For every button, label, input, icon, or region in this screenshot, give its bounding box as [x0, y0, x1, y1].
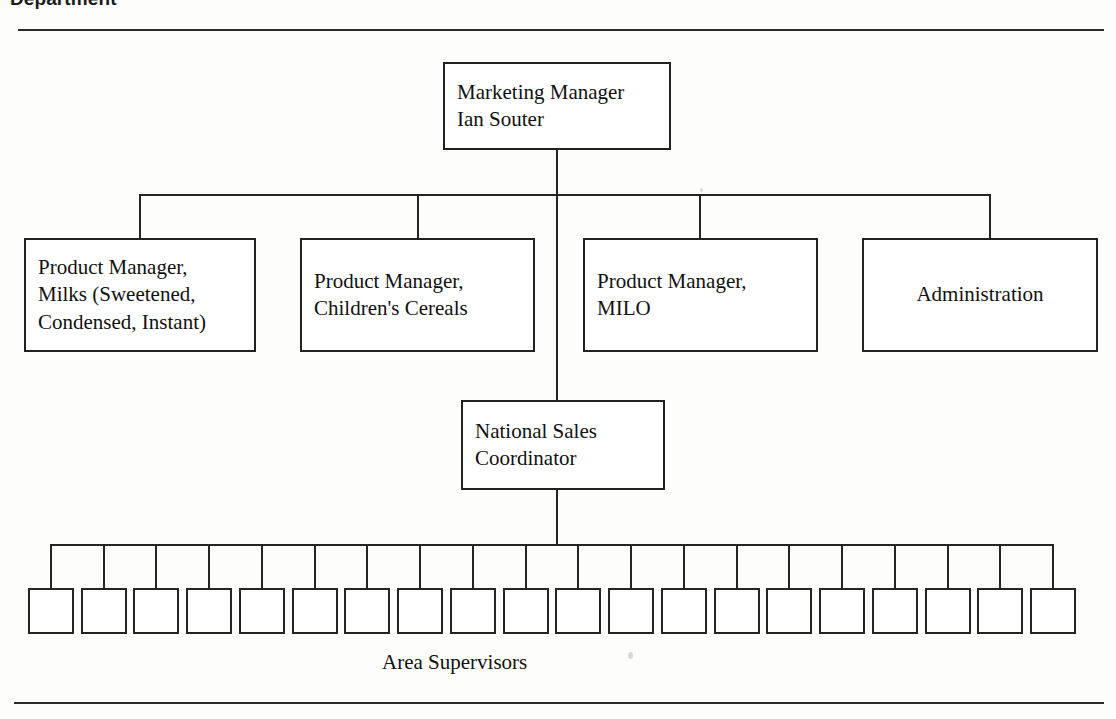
org-node-area-supervisor[interactable] — [239, 588, 285, 634]
connector-drop-area-supervisor — [841, 544, 843, 588]
org-node-area-supervisor[interactable] — [555, 588, 601, 634]
org-node-product-manager-milo[interactable]: Product Manager, MILO — [583, 238, 818, 352]
connector-supervisors-bus — [50, 544, 1054, 546]
connector-drop-area-supervisor — [999, 544, 1001, 588]
scan-speckle — [700, 188, 703, 192]
connector-drop-area-supervisor — [208, 544, 210, 588]
org-node-area-supervisor[interactable] — [397, 588, 443, 634]
org-node-area-supervisor[interactable] — [977, 588, 1023, 634]
org-node-area-supervisor[interactable] — [661, 588, 707, 634]
org-node-area-supervisor[interactable] — [819, 588, 865, 634]
connector-root-trunk — [556, 150, 558, 400]
connector-drop-area-supervisor — [472, 544, 474, 588]
area-supervisors-caption: Area Supervisors — [382, 650, 527, 675]
org-node-area-supervisor[interactable] — [450, 588, 496, 634]
connector-level2-bus — [139, 194, 991, 196]
org-node-area-supervisor[interactable] — [925, 588, 971, 634]
org-node-area-supervisor[interactable] — [292, 588, 338, 634]
org-node-marketing-manager[interactable]: Marketing Manager Ian Souter — [443, 62, 671, 150]
org-node-marketing-manager-label: Marketing Manager Ian Souter — [457, 79, 657, 134]
connector-drop-area-supervisor — [366, 544, 368, 588]
connector-drop-area-supervisor — [577, 544, 579, 588]
connector-nsc-trunk — [556, 490, 558, 545]
connector-drop-area-supervisor — [103, 544, 105, 588]
connector-drop-area-supervisor — [314, 544, 316, 588]
org-node-area-supervisor[interactable] — [872, 588, 918, 634]
org-node-area-supervisor[interactable] — [28, 588, 74, 634]
connector-drop-milks — [139, 194, 141, 238]
org-node-national-sales-coordinator-label: National Sales Coordinator — [475, 418, 651, 473]
connector-drop-area-supervisor — [155, 544, 157, 588]
org-node-area-supervisor[interactable] — [344, 588, 390, 634]
org-node-product-manager-childrens-cereals-label: Product Manager, Children's Cereals — [314, 268, 521, 323]
org-chart-page: Department Marketing Manager Ian Souter … — [0, 0, 1116, 719]
org-node-area-supervisor[interactable] — [503, 588, 549, 634]
connector-drop-area-supervisor — [261, 544, 263, 588]
connector-drop-area-supervisor — [50, 544, 52, 588]
connector-drop-area-supervisor — [419, 544, 421, 588]
org-node-area-supervisor[interactable] — [186, 588, 232, 634]
org-node-area-supervisor[interactable] — [133, 588, 179, 634]
org-node-administration[interactable]: Administration — [862, 238, 1098, 352]
header-divider-rule — [18, 29, 1104, 31]
org-node-area-supervisor[interactable] — [81, 588, 127, 634]
org-node-area-supervisor[interactable] — [766, 588, 812, 634]
org-node-area-supervisor[interactable] — [714, 588, 760, 634]
page-title: Department — [10, 0, 117, 10]
org-node-product-manager-milks[interactable]: Product Manager, Milks (Sweetened, Conde… — [24, 238, 256, 352]
connector-drop-area-supervisor — [525, 544, 527, 588]
connector-drop-area-supervisor — [683, 544, 685, 588]
connector-drop-area-supervisor — [1052, 544, 1054, 588]
org-node-administration-label: Administration — [876, 281, 1084, 308]
connector-drop-area-supervisor — [894, 544, 896, 588]
connector-drop-area-supervisor — [630, 544, 632, 588]
scan-speckle — [628, 652, 633, 659]
connector-drop-area-supervisor — [947, 544, 949, 588]
org-node-area-supervisor[interactable] — [608, 588, 654, 634]
org-node-product-manager-milo-label: Product Manager, MILO — [597, 268, 804, 323]
org-node-national-sales-coordinator[interactable]: National Sales Coordinator — [461, 400, 665, 490]
connector-drop-area-supervisor — [736, 544, 738, 588]
footer-divider-rule — [14, 702, 1104, 704]
connector-drop-milo — [699, 194, 701, 238]
org-node-product-manager-childrens-cereals[interactable]: Product Manager, Children's Cereals — [300, 238, 535, 352]
connector-drop-childrens-cereals — [417, 194, 419, 238]
org-node-product-manager-milks-label: Product Manager, Milks (Sweetened, Conde… — [38, 254, 242, 336]
connector-drop-area-supervisor — [788, 544, 790, 588]
org-node-area-supervisor[interactable] — [1030, 588, 1076, 634]
connector-drop-administration — [989, 194, 991, 238]
